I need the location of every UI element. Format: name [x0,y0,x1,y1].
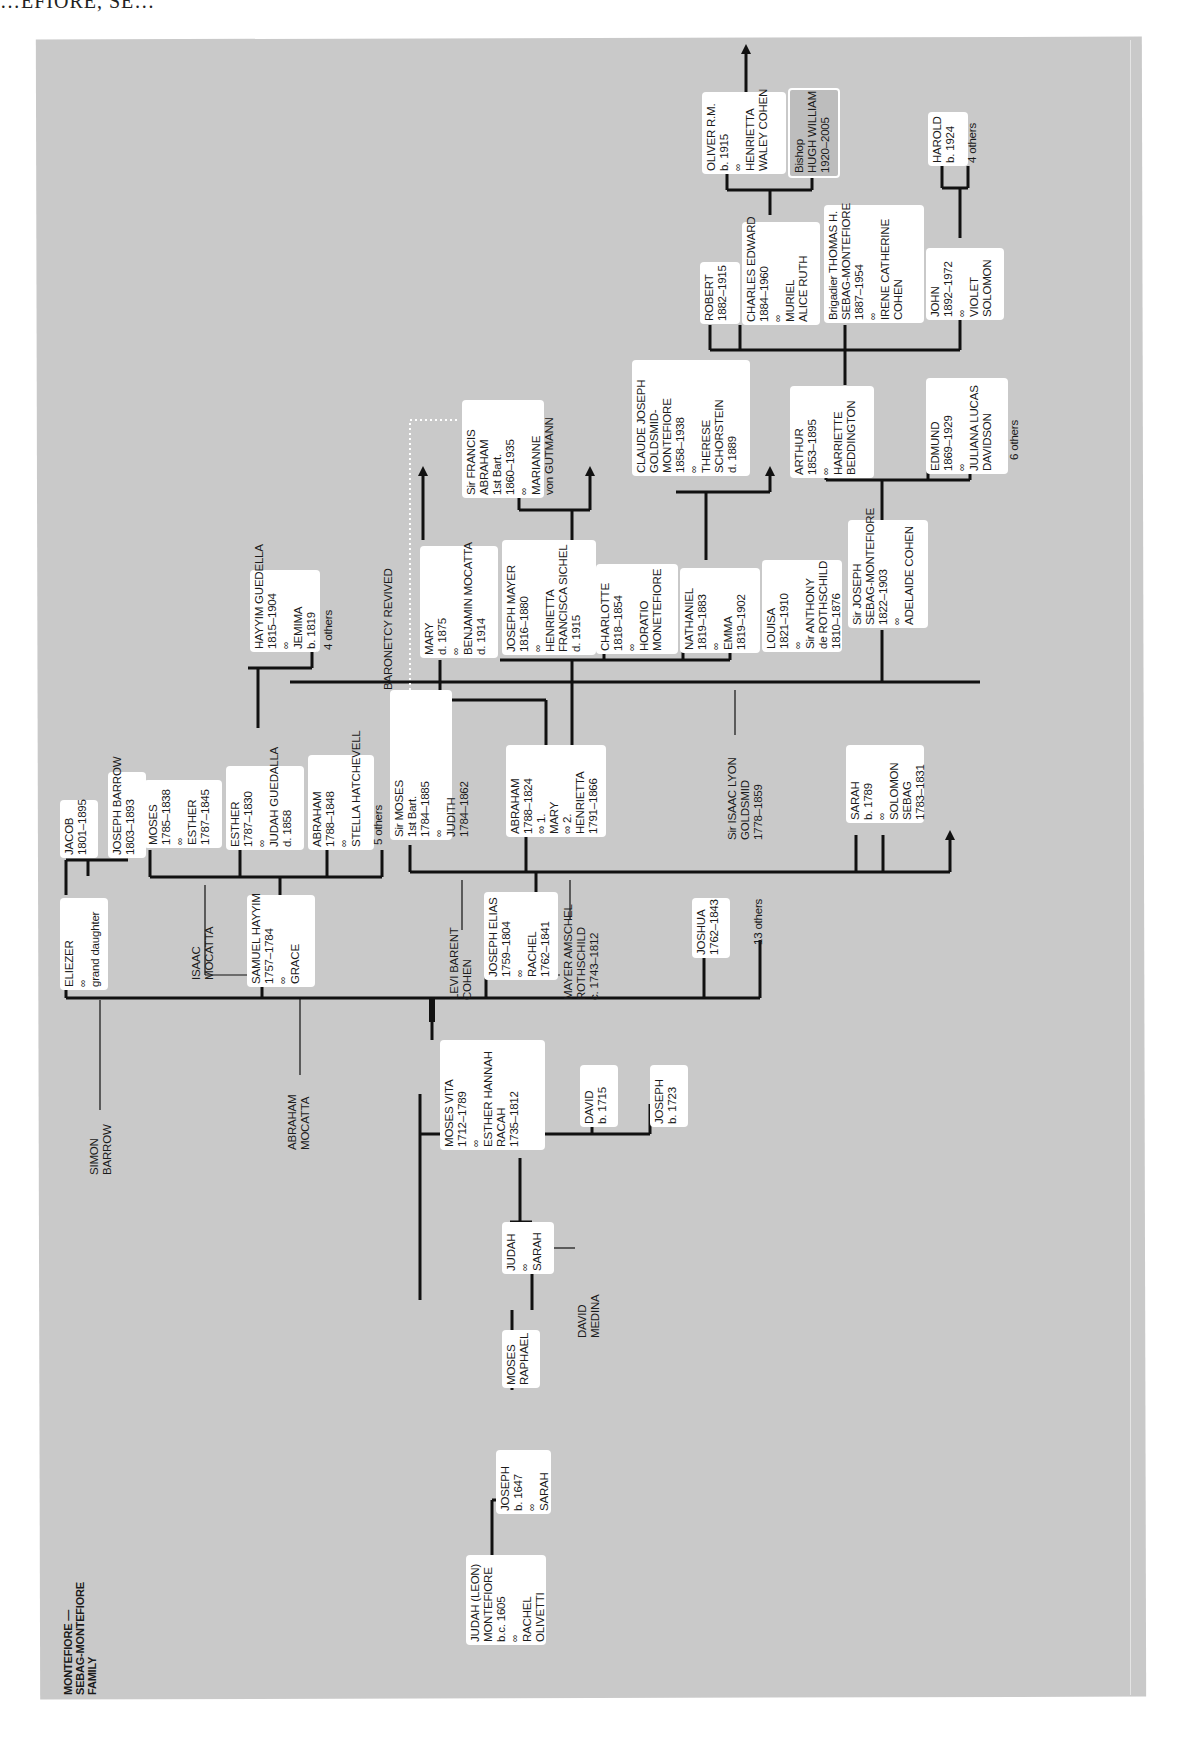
person-moses-vita[interactable]: MOSES VITA 1712–1789 ∞ ESTHER HANNAH RAC… [440,1040,545,1150]
person-oliver-rm[interactable]: OLIVER R.M. b. 1915 ∞ HENRIETTA WALEY CO… [702,92,786,174]
six-others-label: 6 others [1008,410,1022,460]
person-sir-francis-abraham[interactable]: Sir FRANCIS ABRAHAM 1st Bart. 1860–1935 … [462,400,544,498]
person-judah-leon-montefiore[interactable]: JUDAH (LEON) MONTEFIORE b.c. 1605 ∞ RACH… [466,1555,546,1645]
diagram-title: MONTEFIORE — SEBAG-MONTEFIORE FAMILY [62,1545,122,1695]
person-arthur[interactable]: ARTHUR 1853–1895 ∞ HARRIETTE BEDDINGTON [790,386,874,478]
person-sarah-1789[interactable]: SARAH b. 1789 ∞ SOLOMON SEBAG 1783–1831 [846,745,924,823]
four-others-label-2: 4 others [966,118,980,163]
person-joseph-mayer[interactable]: JOSEPH MAYER 1816–1880 ∞ HENRIETTA FRANC… [502,540,596,655]
person-louisa[interactable]: LOUISA 1821–1910 ∞ Sir ANTHONY de ROTHSC… [762,560,842,652]
person-mary-1875[interactable]: MARY d. 1875 ∞ BENJAMIN MOCATTA d. 1914 [420,546,498,658]
person-samuel-hayyim[interactable]: SAMUEL HAYYIM 1757–1784 ∞ GRACE [247,895,315,987]
person-david-1715[interactable]: DAVID b. 1715 [580,1065,618,1127]
person-joseph-elias[interactable]: JOSEPH ELIAS 1759–1804 ∞ RACHEL 1762–184… [484,892,558,980]
person-joseph-barrow[interactable]: JOSEPH BARROW 1803–1893 [108,772,146,858]
person-mayer-amschel-rothschild: MAYER AMSCHEL ROTHSCHILD c. 1743–1812 [562,900,608,1000]
person-sir-joseph-sebag-montefiore[interactable]: Sir JOSEPH SEBAG-MONTEFIORE 1822–1903 ∞ … [848,520,928,628]
person-jacob[interactable]: JACOB 1801–1895 [60,800,98,858]
person-robert[interactable]: ROBERT 1882–1915 [700,262,740,324]
connector-lines [0,0,1192,1746]
person-david-medina: DAVID MEDINA [576,1278,606,1338]
person-abraham-1788-1848[interactable]: ABRAHAM 1788–1848 ∞ STELLA HATCHEVELL [308,755,374,850]
person-esther-1787[interactable]: ESTHER 1787–1830 ∞ JUDAH GUEDALLA d. 185… [226,766,304,850]
person-bishop-hugh-william[interactable]: Bishop HUGH WILLIAM 1920–2005 [788,88,840,178]
person-moses-raphael[interactable]: MOSES RAPHAEL [502,1330,540,1388]
person-levi-barent-cohen: LEVI BARENT COHEN [448,930,478,1000]
person-joshua[interactable]: JOSHUA 1762–1843 [692,898,730,958]
person-sir-isaac-lyon-goldsmid: Sir ISAAC LYON GOLDSMID 1778–1859 [726,740,772,840]
person-abraham-1788-1824[interactable]: ABRAHAM 1788–1824 ∞ 1. MARY ∞ 2. HENRIET… [506,745,606,837]
person-simon-barrow: SIMON BARROW [88,1115,118,1175]
person-hayyim-guedella[interactable]: HAYYIM GUEDELLA 1815–1904 ∞ JEMIMA b. 18… [250,570,320,652]
person-judah-sarah[interactable]: JUDAH ∞ SARAH [502,1222,554,1274]
person-claude-joseph-goldsmid-montefiore[interactable]: CLAUDE JOSEPH GOLDSMID- MONTEFIORE 1858–… [632,360,750,476]
person-abraham-mocatta: ABRAHAM MOCATTA [286,1080,316,1150]
person-charlotte[interactable]: CHARLOTTE 1818–1854 ∞ HORATIO MONETEFIOR… [596,564,678,654]
person-sir-moses[interactable]: Sir MOSES 1st Bart. 1784–1885 ∞ JUDITH 1… [390,690,452,840]
five-others-label: 5 others [372,795,386,845]
four-others-label: 4 others [322,605,336,650]
person-joseph-1647[interactable]: JOSEPH b. 1647 ∞ SARAH [496,1450,551,1514]
person-brigadier-thomas[interactable]: Brigadier THOMAS H. SEBAG-MONTEFIORE 188… [824,205,924,323]
person-moses-1785[interactable]: MOSES 1785–1838 ∞ ESTHER 1787–1845 [144,780,222,848]
person-charles-edward[interactable]: CHARLES EDWARD 1884–1960 ∞ MURIEL ALICE … [742,222,820,325]
person-harold[interactable]: HAROLD b. 1924 [928,112,968,166]
person-joseph-1723[interactable]: JOSEPH b. 1723 [650,1065,688,1127]
person-isaac-mocatta: ISAAC MOCATTA [190,920,220,980]
baronetcy-revived-label: BARONETCY REVIVED [382,570,396,690]
thirteen-others-label: 13 others [752,895,768,945]
person-eliezer[interactable]: ELIEZER ∞ grand daughter [60,898,108,990]
person-edmund[interactable]: EDMUND 1869–1929 ∞ JULIANA LUCAS DAVIDSO… [926,378,1008,474]
person-nathaniel[interactable]: NATHANIEL 1819–1883 ∞ EMMA 1819–1902 [680,568,760,653]
person-john[interactable]: JOHN 1892–1972 ∞ VIOLET SOLOMON [926,248,1004,320]
